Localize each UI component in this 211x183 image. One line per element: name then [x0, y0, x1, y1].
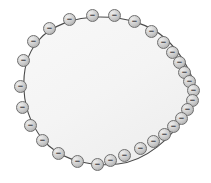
minus-sign-icon: − — [15, 81, 26, 92]
minus-sign-icon: − — [25, 120, 36, 131]
minus-sign-icon: − — [105, 155, 116, 166]
negative-charge-marker: − — [86, 9, 99, 22]
minus-sign-icon: − — [119, 150, 130, 161]
negative-charge-marker: − — [24, 119, 37, 132]
minus-sign-icon: − — [109, 10, 120, 21]
negative-charge-marker: − — [108, 9, 121, 22]
minus-sign-icon: − — [92, 159, 103, 170]
minus-sign-icon: − — [18, 55, 29, 66]
minus-sign-icon: − — [37, 135, 48, 146]
negative-charge-marker: − — [52, 147, 65, 160]
negative-charge-marker: − — [118, 149, 131, 162]
negative-charge-marker: − — [43, 22, 56, 35]
minus-sign-icon: − — [64, 14, 75, 25]
negative-charge-marker: − — [147, 135, 160, 148]
negative-charge-marker: − — [91, 158, 104, 171]
minus-sign-icon: − — [159, 129, 170, 140]
negative-charge-marker: − — [16, 101, 29, 114]
minus-sign-icon: − — [72, 156, 83, 167]
negative-charge-marker: − — [14, 80, 27, 93]
negative-charge-marker: − — [36, 134, 49, 147]
minus-sign-icon: − — [17, 102, 28, 113]
minus-sign-icon: − — [53, 148, 64, 159]
minus-sign-icon: − — [44, 23, 55, 34]
minus-sign-icon: − — [146, 26, 157, 37]
negative-charge-marker: − — [17, 54, 30, 67]
negative-charge-marker: − — [128, 15, 141, 28]
surface-charge-layer: −−−−−−−−−−−−−−−−−−−−−−−−−−−−−− — [0, 0, 211, 183]
negative-charge-marker: − — [145, 25, 158, 38]
minus-sign-icon: − — [28, 36, 39, 47]
negative-charge-marker: − — [134, 142, 147, 155]
negative-charge-marker: − — [158, 128, 171, 141]
negative-charge-marker: − — [63, 13, 76, 26]
minus-sign-icon: − — [129, 16, 140, 27]
minus-sign-icon: − — [87, 10, 98, 21]
negative-charge-marker: − — [104, 154, 117, 167]
figure-canvas: −−−−−−−−−−−−−−−−−−−−−−−−−−−−−− — [0, 0, 211, 183]
negative-charge-marker: − — [27, 35, 40, 48]
minus-sign-icon: − — [148, 136, 159, 147]
minus-sign-icon: − — [135, 143, 146, 154]
negative-charge-marker: − — [71, 155, 84, 168]
